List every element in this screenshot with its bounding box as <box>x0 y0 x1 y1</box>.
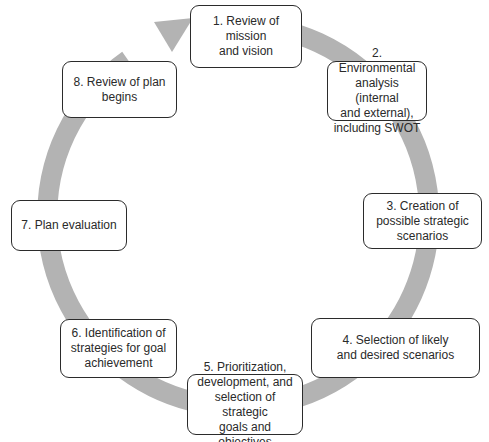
step-6-identification-strategies: 6. Identification of strategies for goal… <box>60 319 177 378</box>
step-4-selection-scenarios: 4. Selection of likely and desired scena… <box>311 318 480 378</box>
step-8-review-plan-begins: 8. Review of plan begins <box>62 61 177 118</box>
step-7-plan-evaluation: 7. Plan evaluation <box>11 200 127 251</box>
step-5-prioritization-goals: 5. Prioritization, development, and sele… <box>187 374 303 435</box>
step-2-environmental-analysis: 2. Environmental analysis (internal and … <box>327 61 427 121</box>
arrowhead-icon <box>154 18 193 52</box>
step-1-review-mission: 1. Review of mission and vision <box>190 5 302 68</box>
step-3-creation-scenarios: 3. Creation of possible strategic scenar… <box>363 193 482 249</box>
